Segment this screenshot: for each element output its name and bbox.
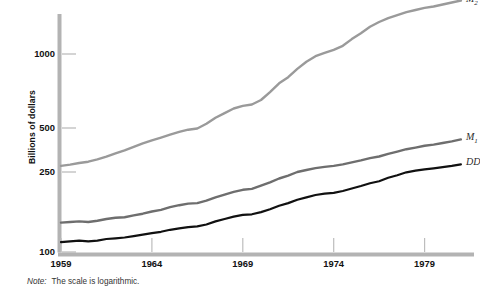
y-tick-label: 500 <box>13 122 55 133</box>
series-label-DD: DD <box>466 156 480 167</box>
x-tick-label: 1959 <box>31 258 91 269</box>
chart-note-text: The scale is logarithmic. <box>52 277 140 286</box>
y-tick-label: 100 <box>13 246 55 257</box>
series-line-DD <box>61 164 461 242</box>
x-tick-label: 1979 <box>395 258 455 269</box>
y-axis-tick-labels: 1002505001000 <box>0 0 55 298</box>
series-label-text: M <box>466 131 474 142</box>
y-tick-label: 1000 <box>13 48 55 59</box>
series-label-subscript: 1 <box>474 137 478 145</box>
series-line-M2 <box>61 1 461 166</box>
y-tick-label: 250 <box>13 166 55 177</box>
x-tick-label: 1974 <box>304 258 364 269</box>
series-label-M1: M1 <box>466 131 478 145</box>
series-label-text: DD <box>466 156 480 167</box>
series-label-subscript: 2 <box>474 0 478 7</box>
x-tick-label: 1969 <box>213 258 273 269</box>
chart-note: Note:The scale is logarithmic. <box>27 277 139 286</box>
series-label-M2: M2 <box>466 0 478 7</box>
chart-series-lines <box>61 1 461 243</box>
chart-note-prefix: Note: <box>27 277 47 286</box>
x-axis-ticks <box>61 238 425 252</box>
x-tick-label: 1964 <box>122 258 182 269</box>
series-label-text: M <box>466 0 474 4</box>
